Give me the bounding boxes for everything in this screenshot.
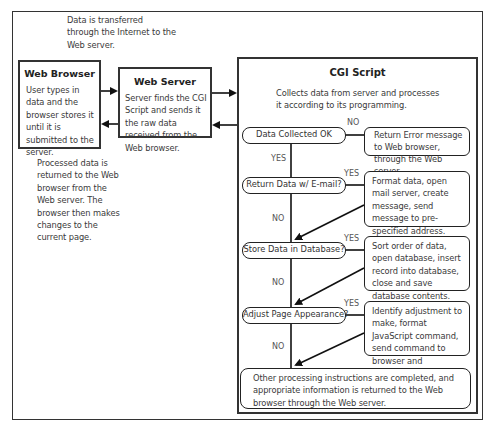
decision-data-collected: Data Collected OK: [242, 127, 346, 144]
decision-adjust-page: Adjust Page Appearance?: [242, 307, 346, 324]
branch-label-no: NO: [347, 118, 359, 127]
branch-label-yes: YES: [344, 299, 359, 308]
branch-label-yes: YES: [271, 154, 286, 163]
action-sort-database: Sort order of data, open database, inser…: [364, 236, 470, 291]
branch-label-no: NO: [272, 278, 284, 287]
decision-return-email: Return Data w/ E-mail?: [242, 177, 346, 194]
action-return-error: Return Error message to Web browser, thr…: [364, 127, 470, 156]
branch-label-yes: YES: [344, 169, 359, 178]
branch-label-no: NO: [272, 214, 284, 223]
decision-label: Adjust Page Appearance?: [243, 309, 349, 319]
action-format-mail: Format data, open mail server, create me…: [364, 171, 470, 227]
final-processing-box: Other processing instructions are comple…: [240, 368, 471, 409]
decision-store-database: Store Data in Database?: [242, 242, 346, 259]
branch-label-yes: YES: [344, 234, 359, 243]
decision-label: Return Data w/ E-mail?: [246, 179, 341, 189]
decision-label: Data Collected OK: [256, 129, 332, 139]
decision-label: Store Data in Database?: [243, 244, 344, 254]
branch-label-no: NO: [272, 342, 284, 351]
action-identify-adjustment: Identify adjustment to make, format Java…: [364, 301, 470, 356]
